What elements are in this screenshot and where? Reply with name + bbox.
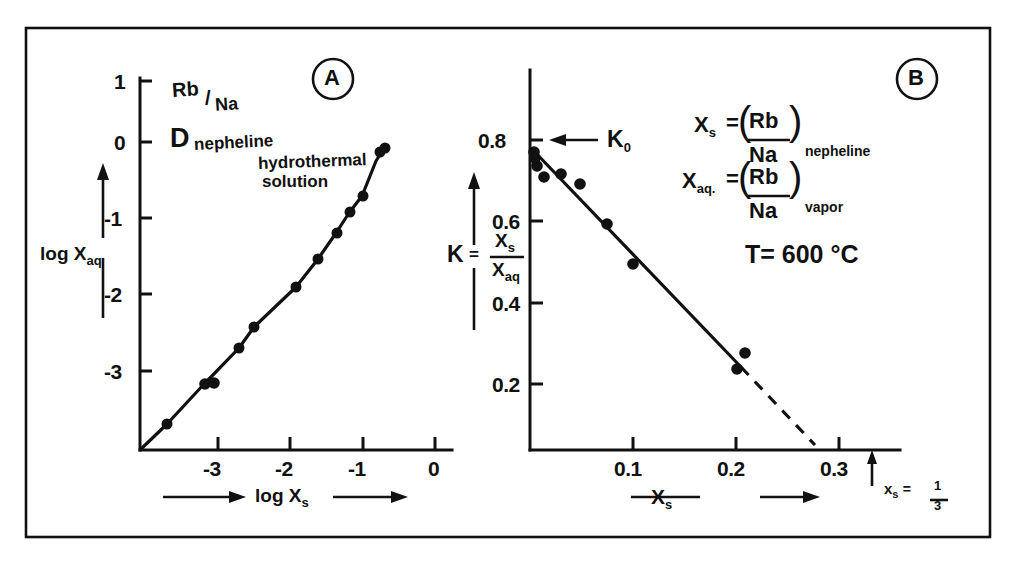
panel-a-xtick-label-neg1: -1 — [348, 457, 366, 481]
panel-b-x-axis-title: Xs — [651, 485, 672, 509]
panel-b-x-axis-title-main: X — [651, 485, 665, 508]
panel-b-x-axis-title-sub: s — [665, 497, 672, 512]
panel-a-point — [332, 228, 343, 239]
panel-a-xtick-label-neg3: -3 — [203, 457, 221, 481]
panel-b-xtick-label-01: 0.1 — [614, 457, 642, 481]
panel-a-x-axis-title: log Xs — [255, 485, 309, 507]
panel-b-y-arrowhead — [468, 172, 480, 189]
panel-b-xs-third-label: xs = — [884, 480, 911, 497]
eq2-lhs-sub: aq. — [697, 181, 716, 196]
panel-b-k0-label-main: K — [607, 126, 624, 152]
panel-b-ytick-label-04: 0.4 — [492, 292, 520, 316]
panel-b-point — [531, 160, 543, 172]
panel-b-xs-third-sub: s — [892, 488, 898, 500]
eq2-paren-right: ) — [789, 155, 802, 200]
panel-a-y-axis-title-sub: aq — [86, 253, 101, 268]
panel-a-annotation-rb: Rb — [171, 77, 199, 102]
panel-a-point — [291, 282, 302, 293]
panel-a-annotation-d: D — [170, 123, 190, 154]
eq1-lhs-sub: s — [709, 125, 716, 140]
panel-b-xtick-label-03: 0.3 — [820, 457, 848, 481]
panel-a-annotation-solution: solution — [262, 172, 328, 192]
panel-a-annotation-na: Na — [214, 93, 238, 116]
panel-a-y-arrowhead — [97, 163, 109, 180]
panel-a-point — [162, 419, 173, 430]
eq1-equals: = — [726, 110, 739, 136]
panel-a-ytick-label-0: 0 — [114, 131, 125, 155]
panel-a-point — [249, 322, 260, 333]
panel-a-y-axis-title-main: log X — [40, 243, 86, 264]
panel-a-ytick-label-neg2: -2 — [104, 283, 122, 307]
panel-b-ytick-label-02: 0.2 — [492, 373, 520, 397]
panel-a-x-axis-title-main: log X — [255, 485, 301, 506]
panel-b-k0-label: K0 — [607, 126, 631, 153]
eq2-numerator: Rb — [749, 164, 778, 190]
panel-b-ytick-label-08: 0.8 — [478, 129, 506, 153]
eq1-subscript: nepheline — [805, 143, 870, 159]
panel-b-y-axis-denominator: Xaq — [492, 259, 520, 281]
panel-b-xtick-label-02: 0.2 — [717, 457, 745, 481]
eq1-paren-right: ) — [789, 99, 802, 144]
panel-a-point — [380, 143, 391, 154]
panel-a-x-arrowhead-right — [391, 491, 408, 503]
panel-a-point — [234, 343, 245, 354]
figure-container: 1 0 -1 -2 -3 -3 -2 -1 0 log Xaq log Xs R… — [0, 0, 1009, 568]
panel-a-x-axis-title-sub: s — [301, 495, 308, 510]
eq2-lhs: Xaq. — [682, 168, 715, 194]
eq2-subscript: vapor — [805, 199, 843, 215]
panel-a-xtick-label-0: 0 — [428, 457, 439, 481]
panel-b-y-axis-den-main: X — [492, 259, 505, 280]
panel-b-y-axis-num-main: X — [495, 230, 508, 251]
eq2-lhs-main: X — [682, 168, 697, 193]
eq2-denominator: Na — [749, 198, 777, 224]
panel-a-x-arrowhead-left — [229, 491, 246, 503]
eq2-equals: = — [726, 166, 739, 192]
panel-a-ytick-label-neg3: -3 — [104, 360, 122, 384]
temperature-label: T= 600 °C — [745, 240, 859, 269]
panel-b-point — [601, 218, 613, 230]
eq1-lhs-main: X — [694, 112, 709, 137]
panel-b-y-axis-title-equals: = — [469, 245, 479, 265]
panel-a-xtick-label-neg2: -2 — [275, 457, 293, 481]
panel-a-annotation-hydrothermal: hydrothermal — [258, 150, 367, 174]
panel-a-point — [313, 254, 324, 265]
panel-b-point — [538, 171, 550, 183]
panel-b-y-axis-title-k: K — [447, 241, 464, 268]
eq1-numerator: Rb — [749, 108, 778, 134]
panel-a-point — [208, 377, 220, 389]
panel-a-trend-curve — [140, 148, 384, 450]
panel-b-xs-third-equals: = — [903, 481, 911, 497]
panel-b-tag-label: B — [908, 65, 924, 91]
eq1-lhs: Xs — [694, 112, 716, 138]
panel-a-annotation-nepheline: nepheline — [194, 131, 274, 155]
panel-b-point — [739, 347, 751, 359]
panel-b-xs-third-numerator: 1 — [934, 478, 941, 493]
panel-b-y-axis-den-sub: aq — [505, 269, 520, 284]
panel-b-x-arrowhead-right — [803, 491, 820, 503]
panel-b-k0-label-sub: 0 — [624, 140, 631, 155]
panel-b-y-axis-num-sub: s — [508, 240, 515, 255]
panel-a-ytick-label-neg1: -1 — [104, 207, 122, 231]
panel-b-extrapolation-line — [741, 367, 815, 445]
panel-b-point — [555, 168, 567, 180]
panel-b-xs-third-denominator: 3 — [934, 498, 941, 513]
panel-a-y-axis-title: log Xaq — [40, 243, 102, 265]
panel-a-tag-label: A — [324, 65, 340, 91]
panel-b-point — [627, 258, 639, 270]
figure-svg — [0, 0, 1009, 568]
panel-b-point — [574, 178, 586, 190]
panel-b-y-axis-numerator: Xs — [495, 230, 515, 252]
panel-a-point — [345, 207, 356, 218]
panel-b-k0-arrowhead — [549, 134, 566, 146]
panel-b-xs-third-arrowhead — [867, 450, 877, 464]
panel-a-annotation-slash: / — [205, 87, 211, 110]
panel-a-ytick-label-1: 1 — [114, 70, 125, 94]
panel-b-point — [731, 363, 743, 375]
panel-a-point — [358, 191, 369, 202]
